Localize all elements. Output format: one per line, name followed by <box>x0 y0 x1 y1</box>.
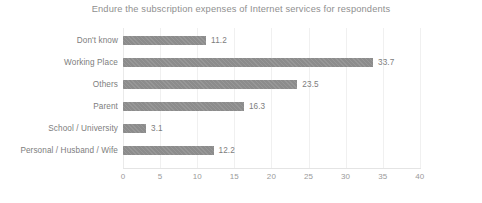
x-axis: 0510152025303540 <box>0 168 482 188</box>
x-tick-label: 40 <box>410 172 430 182</box>
x-tick-label: 15 <box>224 172 244 182</box>
x-tick-label: 5 <box>150 172 170 182</box>
bar-value-label: 3.1 <box>151 124 163 133</box>
bar-row: Parent16.3 <box>0 102 482 124</box>
category-label: Working Place <box>0 58 118 67</box>
bar <box>123 58 373 67</box>
x-tick-label: 35 <box>373 172 393 182</box>
bar-chart-figure: Endure the subscription expenses of Inte… <box>0 0 482 203</box>
category-label: Others <box>0 80 118 89</box>
bar-row: Others23.5 <box>0 80 482 102</box>
x-axis-line <box>123 168 421 169</box>
bar-value-label: 16.3 <box>249 102 265 111</box>
x-tick-label: 20 <box>261 172 281 182</box>
bar-row: Personal / Husband / Wife12.2 <box>0 146 482 168</box>
bar-value-label: 23.5 <box>302 80 318 89</box>
bar-row: Working Place33.7 <box>0 58 482 80</box>
bar-value-label: 33.7 <box>378 58 394 67</box>
category-label: Personal / Husband / Wife <box>0 146 118 155</box>
x-tick-label: 0 <box>113 172 133 182</box>
category-label: Don't know <box>0 36 118 45</box>
bar-row: School / University3.1 <box>0 124 482 146</box>
bar <box>123 80 297 89</box>
x-tick-label: 30 <box>336 172 356 182</box>
bar <box>123 146 214 155</box>
category-label: School / University <box>0 124 118 133</box>
bar <box>123 102 244 111</box>
bar-row: Don't know11.2 <box>0 36 482 58</box>
bar <box>123 36 206 45</box>
bar-value-label: 11.2 <box>211 36 227 45</box>
plot-area: Don't know11.2Working Place33.7Others23.… <box>0 28 482 168</box>
bar <box>123 124 146 133</box>
x-tick-label: 10 <box>187 172 207 182</box>
bar-value-label: 12.2 <box>219 146 235 155</box>
chart-title: Endure the subscription expenses of Inte… <box>0 2 482 16</box>
x-tick-label: 25 <box>299 172 319 182</box>
category-label: Parent <box>0 102 118 111</box>
